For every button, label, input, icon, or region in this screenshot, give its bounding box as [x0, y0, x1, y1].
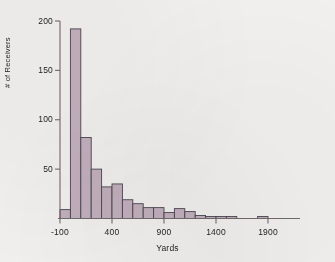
y-tick-label: 200	[20, 16, 53, 26]
bars-group	[60, 29, 268, 219]
x-axis-title: Yards	[0, 243, 335, 253]
y-tick-label: 150	[20, 65, 53, 75]
histogram-bar	[91, 169, 101, 218]
x-tick-label: 900	[144, 227, 184, 237]
y-axis-title: # of Receivers	[3, 4, 12, 88]
chart-canvas	[0, 0, 335, 262]
histogram-bar	[185, 212, 195, 219]
histogram-bar	[164, 213, 174, 219]
histogram-figure: 50100150200 -10040090014001900 # of Rece…	[0, 0, 335, 262]
y-tick-label: 100	[20, 114, 53, 124]
histogram-bar	[174, 209, 184, 219]
histogram-bar	[102, 187, 112, 219]
x-tick-label: 1400	[196, 227, 236, 237]
histogram-bar	[122, 200, 132, 219]
histogram-bar	[112, 184, 122, 219]
x-tick-label: -100	[40, 227, 80, 237]
x-tick-label: 1900	[248, 227, 288, 237]
x-tick-label: 400	[92, 227, 132, 237]
histogram-bar	[133, 204, 143, 219]
y-tick-label: 50	[20, 164, 53, 174]
histogram-bar	[60, 210, 70, 219]
histogram-bar	[154, 208, 164, 219]
histogram-bar	[70, 29, 80, 219]
histogram-bar	[143, 208, 153, 219]
histogram-bar	[81, 138, 91, 219]
